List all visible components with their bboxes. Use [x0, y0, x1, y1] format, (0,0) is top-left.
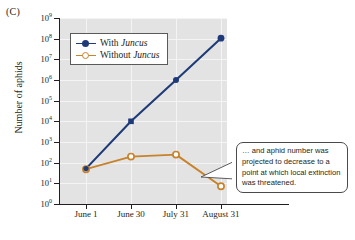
x-tick-label: August 31	[190, 209, 252, 219]
y-axis-line	[59, 18, 60, 205]
open-circle-marker-icon	[76, 50, 96, 61]
y-tick-label: 100	[26, 198, 52, 209]
legend-label-with-juncus: With Juncus	[100, 37, 147, 49]
legend-item-with-juncus: With Juncus	[76, 37, 160, 49]
y-tick-label: 105	[26, 95, 52, 106]
y-tick-label: 101	[26, 177, 52, 188]
filled-circle-marker-icon	[76, 38, 96, 49]
y-tick-label: 104	[26, 115, 52, 126]
legend-item-without-juncus: Without Juncus	[76, 49, 160, 61]
y-tick-label: 108	[26, 33, 52, 44]
y-tick-label: 109	[26, 12, 52, 23]
y-tick-label: 106	[26, 74, 52, 85]
legend-label-without-juncus: Without Juncus	[100, 49, 160, 61]
y-tick-label: 103	[26, 136, 52, 147]
panel-letter: (C)	[6, 6, 20, 17]
annotation-callout: … and aphid number was projected to decr…	[236, 142, 348, 193]
x-axis-line	[59, 204, 289, 205]
y-tick-label: 102	[26, 157, 52, 168]
y-tick-label: 107	[26, 53, 52, 64]
y-axis-title: Number of aphids	[13, 43, 24, 153]
chart-legend: With Juncus Without Juncus	[70, 33, 168, 65]
